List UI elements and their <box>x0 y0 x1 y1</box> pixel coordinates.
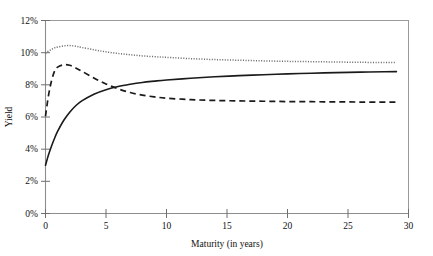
x-tick-label-0: 0 <box>43 221 48 231</box>
y-tick-label-12: 12% <box>21 16 39 26</box>
yield-curve-chart: 0% 2% 4% 6% 8% 10% 12% 0 5 10 15 20 25 3… <box>0 0 433 256</box>
y-tick-label-4: 4% <box>25 144 38 154</box>
y-axis-tick-labels: 0% 2% 4% 6% 8% 10% 12% <box>21 16 39 219</box>
y-tick-label-8: 8% <box>25 80 38 90</box>
y-axis-title: Yield <box>4 106 14 127</box>
series-dotted-curve <box>46 46 397 63</box>
x-axis-title: Maturity (in years) <box>191 239 263 250</box>
y-tick-label-0: 0% <box>25 209 38 219</box>
series-solid-curve <box>46 72 397 166</box>
plot-frame <box>46 21 409 214</box>
x-tick-label-15: 15 <box>222 221 232 231</box>
y-tick-label-6: 6% <box>25 112 38 122</box>
x-tick-label-25: 25 <box>343 221 353 231</box>
x-tick-label-20: 20 <box>283 221 293 231</box>
x-tick-label-30: 30 <box>404 221 414 231</box>
y-tick-label-10: 10% <box>21 48 39 58</box>
x-tick-label-5: 5 <box>104 221 109 231</box>
x-tick-label-10: 10 <box>162 221 172 231</box>
chart-figure: 0% 2% 4% 6% 8% 10% 12% 0 5 10 15 20 25 3… <box>0 0 433 256</box>
x-axis-tick-labels: 0 5 10 15 20 25 30 <box>43 221 413 231</box>
y-tick-label-2: 2% <box>25 176 38 186</box>
